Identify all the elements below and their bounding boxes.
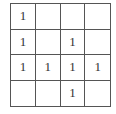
grid-cell-r0-c3 (85, 4, 110, 30)
grid-cell-r1-c2: 1 (61, 30, 86, 56)
number-grid: 1 1 1 1 1 1 1 1 (10, 3, 111, 107)
grid-cell-r3-c3 (85, 81, 110, 107)
grid-cell-r2-c3: 1 (85, 55, 110, 81)
grid-cell-r3-c1 (36, 81, 61, 107)
grid-cell-r2-c0: 1 (11, 55, 36, 81)
grid-cell-r2-c1: 1 (36, 55, 61, 81)
grid-cell-r1-c1 (36, 30, 61, 56)
grid-cell-r0-c0: 1 (11, 4, 36, 30)
grid-cell-r1-c3 (85, 30, 110, 56)
grid-cell-r3-c0 (11, 81, 36, 107)
grid-cell-r3-c2: 1 (61, 81, 86, 107)
grid-cell-r1-c0: 1 (11, 30, 36, 56)
grid-cell-r2-c2: 1 (61, 55, 86, 81)
grid-cell-r0-c1 (36, 4, 61, 30)
grid-cell-r0-c2 (61, 4, 86, 30)
